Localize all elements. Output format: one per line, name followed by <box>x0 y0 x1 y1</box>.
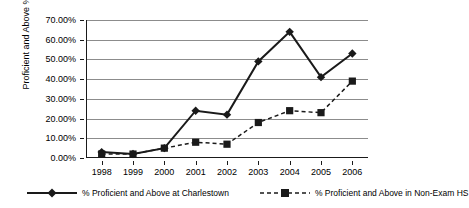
x-axis-tick-mark <box>102 161 103 165</box>
x-axis-tick-mark <box>196 161 197 165</box>
y-axis-tick-mark <box>80 138 84 139</box>
y-axis-tick-label: 70.00% <box>45 15 76 25</box>
y-axis-tick-mark <box>80 158 84 159</box>
legend-swatch-square-dashed-icon <box>259 187 311 199</box>
x-axis-tick-mark <box>258 161 259 165</box>
legend-entry-charlestown: % Proficient and Above at Charlestown <box>26 187 229 199</box>
x-axis-tick-mark <box>321 161 322 165</box>
legend-label: % Proficient and Above at Charlestown <box>82 187 229 199</box>
x-axis-tick-mark <box>227 161 228 165</box>
y-axis-tick-label: 50.00% <box>45 54 76 64</box>
plot-area <box>86 20 368 158</box>
y-axis-tick-mark <box>80 79 84 80</box>
y-axis-tick-mark <box>80 59 84 60</box>
y-axis-tick-label: 60.00% <box>45 35 76 45</box>
gridline <box>87 119 368 120</box>
y-axis-tick-mark <box>80 119 84 120</box>
gridline <box>87 40 368 41</box>
y-axis-tick-mark <box>80 20 84 21</box>
y-axis-tick-mark <box>80 40 84 41</box>
y-axis-tick-mark <box>80 99 84 100</box>
gridline <box>87 59 368 60</box>
gridline <box>87 20 368 21</box>
x-axis-tick-mark <box>290 161 291 165</box>
x-axis-tick-mark <box>164 161 165 165</box>
gridline <box>87 138 368 139</box>
legend-entry-non-exam-hs: % Proficient and Above in Non-Exam HS <box>259 187 469 199</box>
y-axis-tick-label: 10.00% <box>45 133 76 143</box>
x-axis-tick-mark <box>133 161 134 165</box>
gridline <box>87 99 368 100</box>
chart-legend: % Proficient and Above at Charlestown % … <box>0 182 404 204</box>
y-axis-tick-label: 0.00% <box>50 153 76 163</box>
legend-swatch-diamond-solid-icon <box>26 187 78 199</box>
x-axis-tick-label: 2006 <box>332 167 372 177</box>
gridline <box>87 79 368 80</box>
y-axis-tick-label: 20.00% <box>45 114 76 124</box>
legend-label: % Proficient and Above in Non-Exam HS <box>315 187 469 199</box>
y-axis-tick-labels: 0.00%10.00%20.00%30.00%40.00%50.00%60.00… <box>0 20 84 158</box>
y-axis-tick-label: 30.00% <box>45 94 76 104</box>
x-axis-tick-labels: 199819992000200120022003200420052006 <box>86 161 368 177</box>
y-axis-tick-label: 40.00% <box>45 74 76 84</box>
x-axis-tick-mark <box>352 161 353 165</box>
